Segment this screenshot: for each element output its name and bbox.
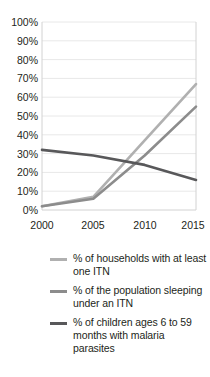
chart-svg: 100% 90% 80% 70% 60% 50% 40% 30% 20% 10%… — [0, 14, 210, 246]
legend-item-label: % of households with at least one ITN — [73, 252, 208, 277]
y-tick-label: 90% — [17, 35, 38, 47]
line-chart-figure: 100% 90% 80% 70% 60% 50% 40% 30% 20% 10%… — [0, 0, 210, 377]
data-series-group — [42, 84, 196, 206]
legend-item: % of the population sleeping under an IT… — [50, 284, 208, 309]
chart-legend: % of households with at least one ITN % … — [50, 252, 208, 361]
y-tick-label: 30% — [17, 148, 38, 160]
y-tick-label: 0% — [23, 204, 38, 216]
legend-swatch-icon — [50, 290, 67, 293]
legend-swatch-icon — [50, 258, 67, 261]
y-tick-label: 70% — [17, 72, 38, 84]
plot-area-wrapper: 100% 90% 80% 70% 60% 50% 40% 30% 20% 10%… — [0, 14, 210, 246]
y-tick-label: 100% — [11, 16, 38, 28]
y-tick-label: 20% — [17, 166, 38, 178]
y-tick-label: 10% — [17, 185, 38, 197]
x-tick-label: 2015 — [181, 219, 205, 231]
legend-item: % of children ages 6 to 59 months with m… — [50, 316, 208, 354]
series-line-0 — [42, 84, 196, 206]
legend-swatch-icon — [50, 322, 67, 325]
y-tick-labels-group: 100% 90% 80% 70% 60% 50% 40% 30% 20% 10%… — [11, 16, 38, 216]
y-tick-label: 60% — [17, 91, 38, 103]
legend-item-label: % of the population sleeping under an IT… — [73, 284, 208, 309]
x-tick-label: 2000 — [30, 219, 54, 231]
legend-item: % of households with at least one ITN — [50, 252, 208, 277]
y-tick-label: 80% — [17, 54, 38, 66]
x-tick-label: 2005 — [81, 219, 105, 231]
y-tick-label: 40% — [17, 129, 38, 141]
legend-item-label: % of children ages 6 to 59 months with m… — [73, 316, 208, 354]
gridlines-group — [42, 22, 196, 191]
y-tick-label: 50% — [17, 110, 38, 122]
x-tick-labels-group: 2000 2005 2010 2015 — [30, 219, 205, 231]
x-tick-label: 2010 — [133, 219, 157, 231]
